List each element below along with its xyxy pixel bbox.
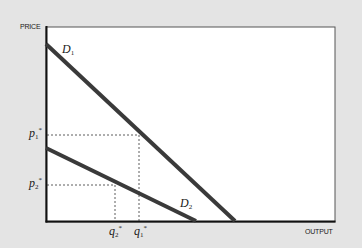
plot-area	[46, 27, 335, 222]
p2-label-sub: 2	[35, 183, 39, 191]
p1-label-sub: 1	[35, 133, 39, 141]
q1-label: q1*	[134, 224, 147, 239]
p1-label-sup: *	[39, 126, 43, 134]
p2-label: p2*	[29, 176, 42, 191]
q2-label-sub: 2	[115, 231, 119, 239]
p1-label: p1*	[29, 126, 42, 141]
y-axis-label: PRICE	[20, 23, 40, 30]
q2-label: q2*	[109, 224, 122, 239]
d2-label-sub: 2	[189, 203, 193, 211]
q1-label-sub: 1	[140, 231, 144, 239]
d1-label-base: D	[62, 42, 71, 56]
x-axis-label: OUTPUT	[305, 228, 333, 235]
d1-label: D1	[62, 42, 74, 57]
d1-label-sub: 1	[71, 49, 75, 57]
d2-label-base: D	[180, 196, 189, 210]
d2-label: D2	[180, 196, 192, 211]
q1-label-sup: *	[144, 224, 148, 232]
p2-label-sup: *	[39, 176, 43, 184]
chart: PRICE OUTPUT D1 D2 p1* p2* q2* q1*	[0, 0, 362, 248]
q2-label-sup: *	[119, 224, 123, 232]
